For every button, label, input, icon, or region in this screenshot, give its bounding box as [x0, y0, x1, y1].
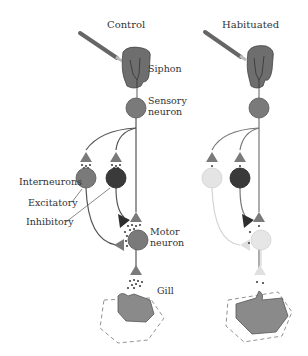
terminal-to-excitatory [80, 152, 92, 162]
vesicles-gill [127, 279, 143, 289]
habituated-panel [202, 32, 292, 342]
siphon-icon [247, 46, 273, 88]
axon-wires [86, 118, 136, 268]
motor-terminal [130, 265, 142, 275]
excitatory-interneuron-faded [202, 168, 222, 188]
terminal-to-inhibitory [110, 152, 122, 162]
probe-icon [80, 33, 122, 61]
probe-icon [205, 32, 246, 60]
excitatory-terminal [114, 239, 124, 251]
motor-neuron [128, 230, 148, 250]
terminal-to-inhibitory [234, 152, 246, 162]
excitatory-terminal-faded [240, 239, 250, 251]
sensory-to-motor-terminal [253, 212, 265, 222]
inhibitory-terminal [242, 214, 254, 228]
label-gill: Gill [157, 285, 174, 296]
inhibitory-interneuron [230, 168, 250, 188]
panel-title-habituated: Habituated [222, 19, 279, 30]
motor-terminal-faded [254, 265, 266, 275]
label-sensory-line1: Sensory [148, 95, 187, 106]
panel-title-control: Control [107, 19, 145, 30]
siphon-icon [122, 47, 150, 88]
label-sensory-line2: neuron [148, 106, 182, 117]
label-siphon: Siphon [148, 63, 182, 74]
label-inhibitory: Inhibitory [26, 216, 74, 227]
control-panel [66, 33, 164, 343]
sensory-to-motor-terminal [130, 212, 142, 222]
motor-neuron-faded [251, 230, 271, 250]
label-motor-line1: Motor [150, 226, 180, 237]
sensory-neuron [249, 98, 269, 118]
label-excitatory: Excitatory [28, 197, 78, 208]
axon-wires [212, 118, 259, 268]
inhibitory-interneuron [106, 168, 126, 188]
label-interneurons: Interneurons [19, 176, 82, 187]
label-motor-line2: neuron [150, 237, 184, 248]
sensory-neuron [126, 98, 146, 118]
terminal-to-excitatory [206, 152, 218, 162]
